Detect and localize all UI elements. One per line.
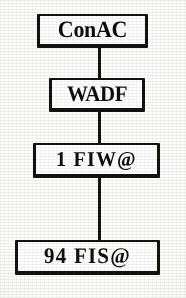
org-node-label: 1 FIW@ bbox=[56, 149, 137, 170]
org-node-conac[interactable]: ConAC bbox=[37, 14, 148, 48]
connector-fiw-to-fis bbox=[98, 177, 101, 241]
org-node-label: ConAC bbox=[58, 18, 127, 41]
org-node-wadf[interactable]: WADF bbox=[49, 78, 145, 112]
org-node-label: 94 FIS@ bbox=[44, 245, 131, 267]
org-node-94-fis[interactable]: 94 FIS@ bbox=[15, 240, 160, 275]
org-chart: ConAC WADF 1 FIW@ 94 FIS@ bbox=[0, 0, 186, 298]
org-node-1-fiw[interactable]: 1 FIW@ bbox=[33, 143, 160, 178]
connector-conac-to-wadf bbox=[98, 47, 101, 79]
connector-wadf-to-fiw bbox=[98, 111, 101, 144]
org-node-label: WADF bbox=[67, 83, 127, 105]
